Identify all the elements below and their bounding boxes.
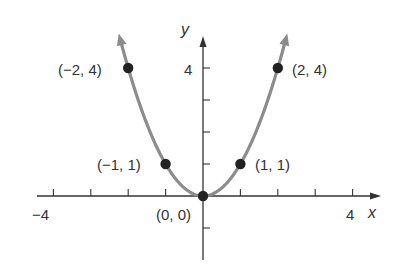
data-point (198, 191, 208, 201)
point-label-neg2-4: (−2, 4) (58, 62, 102, 77)
curve-arrow-icon (279, 33, 289, 46)
y-axis-label: y (181, 22, 189, 38)
x-tick-label-neg4: −4 (32, 207, 49, 222)
plot-area (0, 0, 400, 272)
y-axis-arrow-icon (200, 36, 207, 47)
curve-arrow-icon (117, 33, 127, 46)
data-point (123, 63, 133, 73)
data-point (160, 159, 170, 169)
point-label-1-1: (1, 1) (255, 157, 290, 172)
point-label-origin: (0, 0) (156, 207, 191, 222)
x-axis-arrow-icon (370, 193, 381, 200)
point-label-neg1-1: (−1, 1) (97, 157, 141, 172)
x-tick-label-4: 4 (346, 207, 354, 222)
parabola-graph: y x 4 −4 4 (−2, 4) (2, 4) (−1, 1) (1, 1)… (0, 0, 400, 272)
data-point (273, 63, 283, 73)
point-label-2-4: (2, 4) (292, 62, 327, 77)
data-point (235, 159, 245, 169)
x-axis-label: x (368, 205, 376, 221)
y-tick-label-4: 4 (184, 62, 192, 77)
